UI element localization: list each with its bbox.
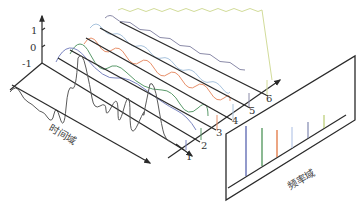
tick-label-0: 0 [30,42,36,53]
amplitude-axis: 1 0 -1 [22,16,45,69]
depth-label-5: 5 [249,105,255,116]
time-frequency-diagram: 1 0 -1 时间域 [0,0,362,207]
depth-label-4: 4 [232,115,238,126]
time-axis-arrow [12,85,150,163]
depth-label-2: 2 [201,140,207,151]
depth-label-6: 6 [266,93,272,104]
time-domain-label: 时间域 [47,121,79,146]
spectrum-panel: 频率域 [226,56,355,200]
wave-component-5 [105,16,245,71]
tick-label-1: 1 [31,25,37,36]
component-waves [56,9,272,131]
depth-label-3: 3 [216,127,222,138]
tick-label-minus-1: -1 [22,58,32,69]
depth-label-1: 1 [186,151,192,162]
frequency-domain-label: 频率域 [285,166,317,191]
